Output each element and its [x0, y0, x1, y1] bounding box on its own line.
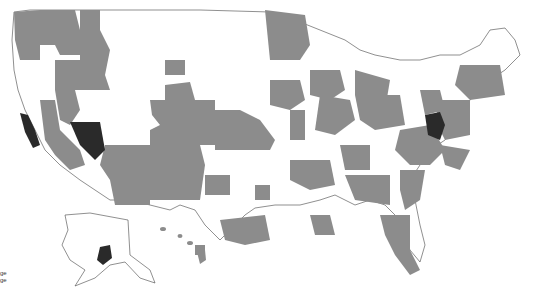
legend-item-medium: ge — [0, 270, 7, 277]
us-choropleth-map — [0, 0, 538, 287]
legend-item-high: ge — [0, 277, 7, 284]
legend: ge ge — [0, 270, 7, 284]
